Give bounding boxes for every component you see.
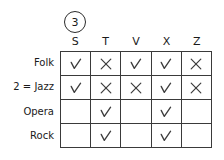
row-label-column: Folk 2 = Jazz Opera Rock [0, 51, 57, 148]
matrix-cell-2-jazz-v[interactable] [121, 76, 151, 100]
row-label-rock: Rock [0, 124, 57, 148]
row-label-opera: Opera [0, 100, 57, 124]
matrix-cell-folk-t[interactable] [91, 52, 121, 76]
matrix-cell-2-jazz-z[interactable] [182, 76, 212, 100]
matrix-cell-rock-t[interactable] [91, 124, 121, 148]
check-icon [159, 57, 173, 71]
matrix-figure: 3 S T V X Z Folk 2 = Jazz Opera Rock [0, 0, 224, 160]
check-icon [129, 57, 143, 71]
check-icon [99, 105, 113, 119]
step-marker-label: 3 [72, 17, 79, 28]
check-icon [159, 81, 173, 95]
cross-icon [99, 81, 113, 95]
cross-icon [189, 81, 203, 95]
matrix-cell-folk-v[interactable] [121, 52, 151, 76]
matrix-grid [60, 51, 212, 148]
matrix-row [61, 124, 212, 148]
matrix-cell-rock-v[interactable] [121, 124, 151, 148]
matrix-cell-opera-v[interactable] [121, 100, 151, 124]
check-icon [69, 57, 83, 71]
column-header-row: S T V X Z [60, 33, 212, 50]
column-header-z: Z [182, 33, 212, 50]
matrix-cell-opera-x[interactable] [152, 100, 182, 124]
cross-icon [99, 57, 113, 71]
row-label-jazz: 2 = Jazz [0, 75, 57, 99]
matrix-cell-rock-s[interactable] [61, 124, 91, 148]
matrix-cell-opera-t[interactable] [91, 100, 121, 124]
check-icon [159, 129, 173, 143]
step-marker-circled: 3 [64, 11, 86, 33]
matrix-cell-rock-x[interactable] [152, 124, 182, 148]
matrix-cell-opera-z[interactable] [182, 100, 212, 124]
check-icon [99, 129, 113, 143]
matrix-cell-folk-x[interactable] [152, 52, 182, 76]
column-header-s: S [60, 33, 90, 50]
matrix-cell-2-jazz-x[interactable] [152, 76, 182, 100]
column-header-v: V [121, 33, 151, 50]
matrix-cell-2-jazz-t[interactable] [91, 76, 121, 100]
matrix-cell-folk-z[interactable] [182, 52, 212, 76]
check-icon [159, 105, 173, 119]
matrix-row [61, 100, 212, 124]
column-header-t: T [90, 33, 120, 50]
row-label-folk: Folk [0, 51, 57, 75]
cross-icon [129, 81, 143, 95]
matrix-cell-2-jazz-s[interactable] [61, 76, 91, 100]
matrix-row [61, 52, 212, 76]
check-icon [69, 81, 83, 95]
matrix-cell-opera-s[interactable] [61, 100, 91, 124]
matrix-row [61, 76, 212, 100]
matrix-cell-rock-z[interactable] [182, 124, 212, 148]
column-header-x: X [151, 33, 181, 50]
cross-icon [189, 57, 203, 71]
matrix-cell-folk-s[interactable] [61, 52, 91, 76]
